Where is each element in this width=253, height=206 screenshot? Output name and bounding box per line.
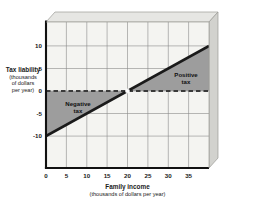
- x-tick-label-20: 20: [122, 173, 134, 179]
- x-tick-label-15: 15: [101, 173, 113, 179]
- y-axis-title-sub-1: (thousands: [1, 74, 45, 81]
- x-tick-label-35: 35: [183, 173, 195, 179]
- y-axis-title-main: Tax liability: [1, 66, 45, 74]
- y-tick-label-10: 10: [26, 43, 42, 49]
- y-axis-title-sub-2: of dollars: [1, 80, 45, 87]
- x-tick-label-25: 25: [142, 173, 154, 179]
- negative-income-tax-chart: 10 5 0 -5 -10 0 5 10 15 20 25 30 35 Tax …: [0, 0, 253, 206]
- positive-tax-label-line1: Positive: [174, 71, 197, 78]
- negative-tax-label: Negative tax: [58, 100, 98, 115]
- frame-top-bevel: [46, 12, 218, 22]
- x-axis-title-sub: (thousands of dollars per year): [45, 191, 210, 198]
- x-axis-title-main: Family income: [45, 183, 210, 191]
- y-axis-title: Tax liability (thousands of dollars per …: [1, 66, 45, 93]
- frame-right-bevel: [209, 12, 218, 168]
- negative-tax-label-line1: Negative: [65, 100, 90, 107]
- x-axis-title: Family income (thousands of dollars per …: [45, 183, 210, 198]
- break-even-point-marker: [125, 89, 129, 93]
- negative-tax-label-line2: tax: [74, 107, 83, 114]
- y-tick-label-minus-5: -5: [24, 111, 42, 117]
- y-axis-title-sub-3: per year): [1, 87, 45, 94]
- x-tick-label-10: 10: [81, 173, 93, 179]
- x-tick-label-0: 0: [40, 173, 52, 179]
- y-tick-label-minus-10: -10: [22, 133, 42, 139]
- x-tick-label-30: 30: [162, 173, 174, 179]
- x-tick-label-5: 5: [60, 173, 72, 179]
- positive-tax-label-line2: tax: [182, 78, 191, 85]
- positive-tax-label: Positive tax: [166, 71, 206, 86]
